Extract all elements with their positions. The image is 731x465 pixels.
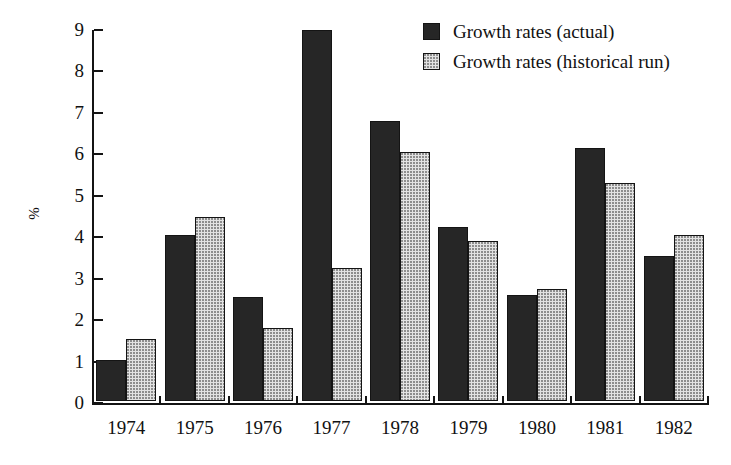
bar-1980-actual <box>507 295 537 401</box>
x-tick-label: 1980 <box>503 418 571 437</box>
x-tick-label: 1977 <box>297 418 365 437</box>
y-tick-mark <box>94 195 103 197</box>
x-tick-label: 1975 <box>160 418 228 437</box>
x-tick-label: 1979 <box>434 418 502 437</box>
x-tick-label: 1974 <box>92 418 160 437</box>
bar-1982-historical <box>674 235 704 401</box>
x-tick-mark <box>228 396 230 405</box>
bar-1982-actual <box>644 256 674 401</box>
y-axis-label: % <box>26 194 43 234</box>
y-tick-mark <box>94 153 103 155</box>
y-tick-label: 7 <box>50 103 84 122</box>
y-tick-label: 9 <box>50 20 84 39</box>
y-tick-label: 1 <box>50 352 84 371</box>
y-tick-mark <box>94 112 103 114</box>
bar-1974-historical <box>126 339 156 401</box>
x-tick-label: 1981 <box>571 418 639 437</box>
x-tick-mark <box>502 396 504 405</box>
y-tick-mark <box>94 29 103 31</box>
y-tick-label: 2 <box>50 310 84 329</box>
y-tick-mark <box>94 402 103 404</box>
bar-1981-historical <box>605 183 635 401</box>
x-axis-line <box>92 403 709 405</box>
bar-1976-historical <box>263 328 293 401</box>
bar-1981-actual <box>575 148 605 401</box>
x-tick-label: 1976 <box>229 418 297 437</box>
bar-chart: % Growth rates (actual) Growth rates (hi… <box>0 0 731 465</box>
y-tick-mark <box>94 278 103 280</box>
bar-1978-historical <box>400 152 430 401</box>
x-tick-mark <box>365 396 367 405</box>
bar-1974-actual <box>96 360 126 401</box>
plot-area: 0123456789 19741975197619771978197919801… <box>92 30 708 403</box>
bar-1980-historical <box>537 289 567 401</box>
x-tick-mark <box>707 396 709 405</box>
bar-1977-historical <box>332 268 362 401</box>
x-tick-mark <box>296 396 298 405</box>
y-tick-label: 0 <box>50 393 84 412</box>
y-tick-mark <box>94 70 103 72</box>
y-tick-mark <box>94 319 103 321</box>
bar-1976-actual <box>233 297 263 401</box>
y-tick-mark <box>94 236 103 238</box>
x-tick-mark <box>570 396 572 405</box>
y-tick-label: 6 <box>50 144 84 163</box>
y-tick-label: 4 <box>50 227 84 246</box>
bar-1977-actual <box>302 30 332 401</box>
bar-1978-actual <box>370 121 400 401</box>
bar-1979-actual <box>438 227 468 401</box>
x-tick-mark <box>639 396 641 405</box>
x-tick-label: 1978 <box>366 418 434 437</box>
bar-1975-actual <box>165 235 195 401</box>
y-axis-line <box>92 30 94 404</box>
bar-1979-historical <box>468 241 498 401</box>
y-tick-label: 5 <box>50 186 84 205</box>
x-tick-label: 1982 <box>640 418 708 437</box>
x-tick-mark <box>159 396 161 405</box>
bar-1975-historical <box>195 217 225 401</box>
x-tick-mark <box>433 396 435 405</box>
y-tick-label: 3 <box>50 269 84 288</box>
y-tick-label: 8 <box>50 61 84 80</box>
